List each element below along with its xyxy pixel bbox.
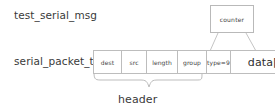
packet-field-dest: dest [94, 51, 122, 73]
counter-box-label: counter [211, 16, 253, 23]
packet-structure-diagram: test_serial_msg serial_packet_t counter … [0, 0, 275, 112]
packet-field-group: group [178, 51, 207, 73]
packet-field-group-label: group [183, 59, 201, 66]
packet-field-data: data[] [231, 51, 275, 73]
counter-box: counter [210, 5, 254, 33]
packet-field-dest-label: dest [101, 59, 114, 66]
packet-field-type-label: type=9 [207, 59, 230, 66]
packet-type-label: serial_packet_t [14, 55, 94, 67]
packet-field-src-label: src [129, 59, 138, 66]
packet-field-data-label: data[] [248, 56, 275, 69]
packet-field-length: length [147, 51, 178, 73]
header-brace [88, 73, 210, 93]
header-brace-label: header [118, 93, 157, 106]
packet-field-row: dest src length group type=9 data[] [93, 50, 275, 74]
packet-field-length-label: length [152, 59, 172, 66]
message-type-label: test_serial_msg [14, 9, 97, 21]
packet-field-src: src [122, 51, 147, 73]
packet-field-type: type=9 [207, 51, 231, 73]
payload-expansion-connector [196, 33, 270, 51]
